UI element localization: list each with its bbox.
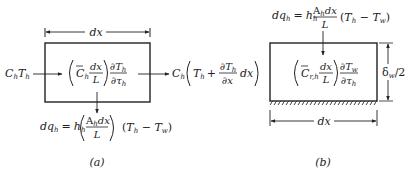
dimension-dx-bottom: dx	[270, 110, 377, 128]
svg-text:Ch: Ch	[172, 67, 185, 81]
svg-text:Cr,h: Cr,h	[301, 67, 319, 81]
svg-text:∂Th: ∂Th	[220, 61, 236, 74]
panel-b: dqh=hh Ahdx L (Th − Tw) Cr,h dx L ∂Tw ∂τ…	[270, 5, 405, 169]
svg-text:L: L	[321, 19, 329, 30]
heat-flux-equation-b: dqh=hh Ahdx L (Th − Tw)	[272, 5, 390, 30]
svg-text:Ahdx: Ahdx	[85, 115, 110, 128]
storage-term-b: Cr,h dx L ∂Tw ∂τh	[295, 60, 359, 88]
svg-text:dqh=hh: dqh=hh	[40, 120, 85, 134]
svg-text:Th+: Th+	[193, 67, 216, 81]
svg-text:L: L	[322, 74, 330, 85]
svg-text:dx: dx	[90, 61, 102, 72]
insulated-base-hatch	[270, 101, 377, 105]
control-volume-box-a	[45, 43, 150, 102]
dim-dx-label: dx	[89, 26, 103, 39]
control-volume-box-b	[270, 43, 377, 101]
storage-term-a: Ch dx L ∂Th ∂τh	[70, 60, 128, 88]
svg-text:dx: dx	[240, 67, 254, 80]
svg-text:∂x: ∂x	[222, 75, 233, 86]
svg-text:L: L	[93, 129, 101, 140]
outlet-term: Ch Th+ ∂Th ∂x dx	[138, 61, 258, 86]
svg-text:∂τh: ∂τh	[111, 75, 126, 88]
svg-text:δw/2: δw/2	[382, 66, 405, 80]
svg-text:Ch: Ch	[76, 67, 89, 81]
svg-text:∂Tw: ∂Tw	[340, 61, 358, 74]
dimension-thickness: δw/2	[379, 43, 405, 101]
svg-text:∂τh: ∂τh	[341, 75, 356, 88]
heat-exchanger-diagram: dx ChTh Ch dx L ∂Th ∂τh Ch	[0, 0, 407, 177]
svg-text:dqh=hh: dqh=hh	[272, 9, 317, 23]
svg-text:(Th − Tw): (Th − Tw)	[340, 11, 390, 25]
panel-a: dx ChTh Ch dx L ∂Th ∂τh Ch	[5, 26, 258, 169]
svg-text:L: L	[92, 74, 100, 85]
heat-flux-equation-a: dqh=hh Ahdx L (Th − Tw)	[40, 115, 172, 141]
svg-text:ChTh: ChTh	[5, 67, 30, 81]
dimension-dx-top: dx	[45, 26, 150, 39]
svg-text:(Th − Tw): (Th − Tw)	[122, 121, 172, 135]
svg-text:dx: dx	[320, 61, 332, 72]
dim-dx-label-b: dx	[317, 115, 331, 128]
panel-b-label: (b)	[315, 156, 331, 169]
inlet-term: ChTh	[5, 67, 62, 81]
svg-text:∂Th: ∂Th	[110, 61, 126, 74]
panel-a-label: (a)	[89, 156, 104, 169]
